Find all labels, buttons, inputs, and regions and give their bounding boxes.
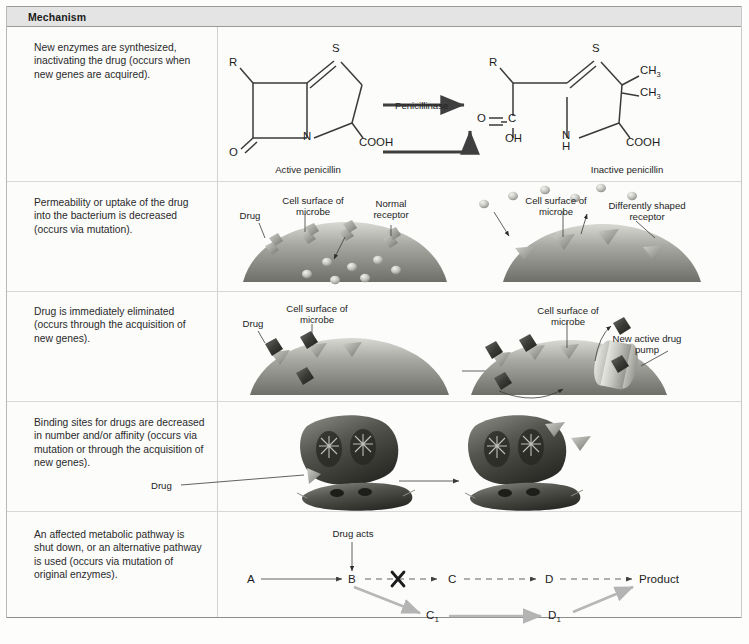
label-drug-row4: Drug [151, 480, 172, 491]
atom-label-r-right: R [489, 56, 497, 68]
pathway-node-b: B [348, 572, 356, 585]
caption-inactive-penicillin: Inactive penicillin [547, 164, 707, 175]
atom-label-c-right: C [508, 112, 516, 124]
label-penicillinase: Penicillinase [395, 100, 448, 111]
label-cell-surface-row2-left: Cell surface of microbe [277, 195, 349, 218]
label-drug-row3: Drug [232, 318, 274, 329]
pathway-node-c: C [448, 572, 456, 585]
row1-chemistry-svg [7, 6, 743, 618]
atom-label-ch3-bottom: CH3 [640, 86, 661, 101]
atom-label-s-left: S [332, 42, 340, 54]
atom-label-h-right: H [562, 140, 570, 152]
atom-label-o-right: O [477, 112, 486, 124]
caption-active-penicillin: Active penicillin [223, 164, 393, 175]
pathway-node-d: D [545, 572, 553, 585]
inactive-penicillin-structure [489, 61, 639, 138]
pathway-node-d1: D1 [548, 608, 561, 624]
row4-left-ribosome [181, 415, 459, 511]
atom-label-n-left: N [303, 130, 311, 142]
label-cell-surface-row2-right: Cell surface of microbe [519, 195, 593, 218]
pathway-node-product: Product [639, 572, 679, 585]
atom-label-r-left: R [229, 56, 237, 68]
resistance-mechanism-figure: Mechanism New enzymes are synthesized, i… [6, 6, 742, 618]
atom-label-cooh-right: COOH [626, 136, 660, 148]
row5-pathway-graph [261, 542, 633, 616]
atom-label-s-right: S [592, 42, 600, 54]
label-cell-surface-row3-left: Cell surface of microbe [281, 303, 353, 326]
penicillinase-reaction-arrows [383, 105, 470, 152]
atom-label-oh-right: OH [505, 132, 522, 144]
label-new-active-drug-pump: New active drug pump [607, 333, 687, 356]
row3-right-cell [471, 317, 668, 398]
pathway-node-a: A [247, 572, 255, 585]
label-normal-receptor: Normal receptor [361, 198, 421, 221]
active-penicillin-structure [240, 61, 363, 153]
row4-right-ribosome [465, 415, 591, 511]
atom-label-o-left: O [229, 146, 238, 158]
label-cell-surface-row3-right: Cell surface of microbe [531, 305, 605, 328]
row2-left-cell [243, 214, 447, 284]
atom-label-cooh-left: COOH [359, 136, 393, 148]
label-drug-row2: Drug [229, 210, 271, 221]
label-differently-shaped-receptor: Differently shaped receptor [597, 200, 697, 223]
label-drug-acts: Drug acts [317, 528, 389, 539]
atom-label-ch3-top: CH3 [640, 64, 661, 79]
pathway-node-c1: C1 [426, 608, 439, 624]
